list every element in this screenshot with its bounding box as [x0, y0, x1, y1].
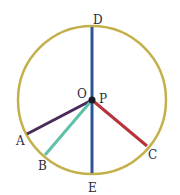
label-d: D [93, 13, 103, 27]
segment-pb [45, 100, 92, 155]
circle-diagram: D E O P A B C [0, 0, 180, 195]
label-b: B [38, 159, 47, 173]
label-c: C [148, 148, 157, 162]
label-p: P [99, 92, 107, 106]
center-point [89, 97, 96, 104]
segment-pa [27, 100, 92, 134]
segment-pc [92, 100, 147, 146]
label-o: O [77, 87, 87, 101]
label-a: A [15, 134, 25, 148]
label-e: E [88, 181, 97, 195]
